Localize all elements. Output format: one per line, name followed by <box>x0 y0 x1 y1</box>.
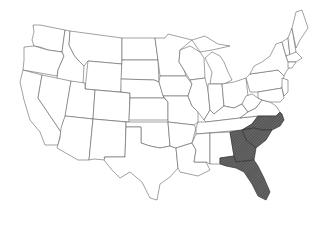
state-kansas <box>129 98 168 120</box>
state-wyoming <box>85 61 122 92</box>
state-florida-highlighted <box>220 156 270 200</box>
state-colorado <box>93 90 130 122</box>
us-map <box>0 0 325 225</box>
state-north-dakota <box>122 38 158 60</box>
state-michigan-upper <box>192 36 230 52</box>
state-south-dakota <box>121 60 159 82</box>
state-new-mexico <box>89 119 126 160</box>
state-michigan <box>205 52 232 84</box>
state-connecticut <box>288 62 296 68</box>
us-map-svg <box>0 0 325 225</box>
state-iowa <box>159 76 192 96</box>
